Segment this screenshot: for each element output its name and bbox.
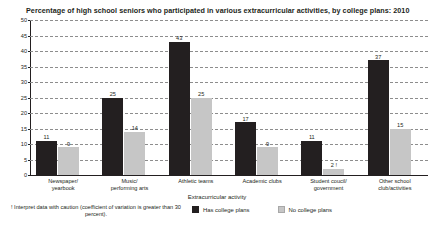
y-axis-tick-label: 30 — [21, 79, 27, 85]
bar: 15 — [390, 129, 411, 176]
y-tick-mark — [28, 175, 31, 176]
bar: 9 — [58, 147, 79, 175]
bar-value-label: 25 — [198, 91, 204, 97]
bar: 9 — [257, 147, 278, 175]
bar: 2 ! — [323, 169, 344, 175]
plot-area: 05101520253035404550 11925144325179112 !… — [30, 20, 428, 175]
y-axis-tick-label: 45 — [21, 33, 27, 39]
category-label-line: yearbook — [30, 185, 96, 192]
y-axis-tick-label: 10 — [21, 141, 27, 147]
chart-legend: Has college plansNo college plans — [192, 206, 332, 213]
bar-group: 119 — [30, 20, 96, 175]
x-axis-category-label: Newspaper/yearbook — [30, 178, 96, 192]
category-label-line: government — [295, 185, 361, 192]
y-axis-tick-label: 35 — [21, 64, 27, 70]
bar-value-label: 11 — [44, 134, 50, 140]
bar-value-label: 15 — [397, 122, 403, 128]
bar: 25 — [102, 98, 123, 176]
bar-value-label: 37 — [375, 54, 381, 60]
bar-value-label: 17 — [242, 116, 248, 122]
y-axis-tick-label: 0 — [24, 172, 27, 178]
bar-group: 3715 — [362, 20, 428, 175]
category-label-line: Newspaper/ — [30, 178, 96, 185]
y-axis-tick-label: 15 — [21, 126, 27, 132]
bar: 37 — [368, 60, 389, 175]
bar-value-label: 9 — [266, 141, 269, 147]
category-label-line: performing arts — [96, 185, 162, 192]
bar-value-label: 11 — [309, 134, 315, 140]
y-axis-tick-label: 25 — [21, 95, 27, 101]
bar: 17 — [235, 122, 256, 175]
bar: 25 — [191, 98, 212, 176]
legend-swatch — [278, 206, 285, 213]
legend-swatch — [192, 206, 199, 213]
x-axis-category-label: Music/performing arts — [96, 178, 162, 192]
bar-group: 112 ! — [295, 20, 361, 175]
bar-chart: Percentage of high school seniors who pa… — [0, 0, 434, 227]
bar: 11 — [36, 141, 57, 175]
category-label-line: Music/ — [96, 178, 162, 185]
axis-baseline — [30, 175, 428, 176]
x-axis-title: Extracurricular activity — [0, 194, 434, 200]
bar: 11 — [301, 141, 322, 175]
y-axis-tick-label: 40 — [21, 48, 27, 54]
category-label-line: Student coucil/ — [295, 178, 361, 185]
category-label-line: Academic clubs — [229, 178, 295, 185]
legend-item: Has college plans — [192, 206, 250, 213]
category-label-line: Athletic teams — [163, 178, 229, 185]
category-label-line: Other school — [362, 178, 428, 185]
chart-footnote: ! Interpret data with caution (coefficie… — [6, 204, 186, 219]
y-axis-tick-label: 5 — [24, 157, 27, 163]
bar: 43 — [169, 42, 190, 175]
legend-label: No college plans — [289, 207, 333, 213]
y-axis-tick-label: 20 — [21, 110, 27, 116]
bar-value-label: 9 — [67, 141, 70, 147]
category-label-line: club/activities — [362, 185, 428, 192]
x-axis-category-label: Academic clubs — [229, 178, 295, 185]
y-axis-tick-label: 50 — [21, 17, 27, 23]
bar-value-label: 25 — [110, 91, 116, 97]
legend-label: Has college plans — [203, 207, 250, 213]
bar-group: 2514 — [96, 20, 162, 175]
caution-flag-icon: ! — [334, 162, 337, 168]
bar-group: 179 — [229, 20, 295, 175]
chart-title: Percentage of high school seniors who pa… — [26, 6, 430, 15]
bar-group: 4325 — [163, 20, 229, 175]
legend-item: No college plans — [278, 206, 333, 213]
bar-value-label: 2 ! — [331, 162, 337, 168]
x-axis-category-label: Other schoolclub/activities — [362, 178, 428, 192]
x-axis-category-label: Athletic teams — [163, 178, 229, 185]
x-axis-category-label: Student coucil/government — [295, 178, 361, 192]
bar-value-label: 14 — [132, 125, 138, 131]
bar-value-label: 43 — [176, 35, 182, 41]
bar: 14 — [124, 132, 145, 175]
